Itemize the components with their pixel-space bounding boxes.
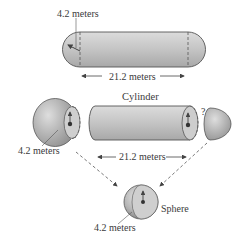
- question-mark: ?: [201, 107, 205, 117]
- convergence-arrows: [76, 143, 207, 186]
- top-radius-label: 4.2 meters: [57, 9, 99, 19]
- left-hemisphere: [33, 99, 80, 147]
- middle-length-label: 21.2 meters: [119, 152, 166, 162]
- sphere-title: Sphere: [161, 204, 189, 214]
- sphere-radius-label: 4.2 meters: [94, 223, 136, 233]
- sphere: [118, 185, 158, 224]
- cylinder-title: Cylinder: [122, 92, 159, 103]
- right-hemisphere: [204, 108, 231, 140]
- cylinder-body: [89, 106, 198, 157]
- top-length-label: 21.2 meters: [109, 72, 156, 82]
- diagram-canvas: [0, 0, 241, 236]
- capsule-tank: [63, 18, 206, 76]
- left-cap-radius-label: 4.2 meters: [18, 146, 60, 156]
